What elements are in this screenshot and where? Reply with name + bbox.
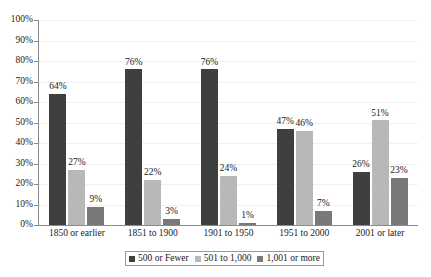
y-axis: 0%10%20%30%40%50%60%70%80%90%100% (0, 20, 33, 225)
y-axis-tick-mark (34, 164, 38, 165)
bar[interactable] (163, 219, 180, 225)
y-axis-tick-mark (34, 20, 38, 21)
x-axis-category-label: 1901 to 1950 (191, 229, 267, 239)
legend-swatch-icon (257, 256, 263, 262)
bar-group: 47%46%7% (266, 20, 342, 225)
legend-item[interactable]: 500 or Fewer (129, 254, 189, 264)
y-axis-tick-mark (34, 41, 38, 42)
legend-label: 501 to 1,000 (204, 254, 252, 264)
y-axis-tick-label: 0% (20, 220, 33, 230)
y-axis-tick-label: 80% (16, 56, 33, 66)
bar[interactable] (391, 178, 408, 225)
bar-value-label: 76% (192, 58, 226, 68)
y-axis-tick-label: 100% (11, 15, 33, 25)
y-axis-tick-label: 90% (16, 36, 33, 46)
bar[interactable] (353, 172, 370, 225)
bar[interactable] (315, 211, 332, 225)
y-axis-tick-label: 10% (16, 200, 33, 210)
bar-value-label: 27% (60, 158, 94, 168)
y-axis-tick-label: 20% (16, 179, 33, 189)
legend-swatch-icon (129, 256, 135, 262)
bar-value-label: 24% (211, 164, 245, 174)
legend-label: 500 or Fewer (138, 254, 189, 264)
bar-value-label: 76% (117, 58, 151, 68)
bar-chart: 0%10%20%30%40%50%60%70%80%90%100% 64%27%… (0, 0, 431, 277)
x-axis-category-label: 1951 to 2000 (266, 229, 342, 239)
bar-value-label: 3% (155, 207, 189, 217)
bar[interactable] (277, 129, 294, 225)
bar-value-label: 7% (306, 199, 340, 209)
legend-item[interactable]: 501 to 1,000 (195, 254, 252, 264)
y-axis-tick-mark (34, 82, 38, 83)
bar-value-label: 1% (230, 211, 264, 221)
bar[interactable] (239, 223, 256, 225)
legend-label: 1,001 or more (266, 254, 320, 264)
bar-value-label: 64% (41, 82, 75, 92)
y-axis-tick-mark (34, 225, 38, 226)
bar-group: 64%27%9% (39, 20, 115, 225)
bar-value-label: 51% (363, 109, 397, 119)
bar[interactable] (144, 180, 161, 225)
y-axis-tick-mark (34, 184, 38, 185)
plot-area: 64%27%9%76%22%3%76%24%1%47%46%7%26%51%23… (39, 20, 418, 225)
legend-item[interactable]: 1,001 or more (257, 254, 320, 264)
y-axis-tick-mark (34, 143, 38, 144)
legend-swatch-icon (195, 256, 201, 262)
bar-group: 76%24%1% (191, 20, 267, 225)
bar[interactable] (201, 69, 218, 225)
x-axis-category-label: 1850 or earlier (39, 229, 115, 239)
bar[interactable] (87, 207, 104, 225)
bar[interactable] (125, 69, 142, 225)
x-axis-line (38, 225, 418, 226)
y-axis-tick-mark (34, 123, 38, 124)
y-axis-tick-label: 60% (16, 97, 33, 107)
x-axis-category-label: 1851 to 1900 (115, 229, 191, 239)
bar-value-label: 23% (382, 166, 416, 176)
chart-legend: 500 or Fewer501 to 1,0001,001 or more (125, 251, 324, 266)
bar-group: 26%51%23% (342, 20, 418, 225)
y-axis-tick-mark (34, 205, 38, 206)
y-axis-tick-mark (34, 102, 38, 103)
bar-value-label: 46% (287, 119, 321, 129)
y-axis-tick-label: 50% (16, 118, 33, 128)
bar-value-label: 9% (79, 195, 113, 205)
y-axis-tick-label: 70% (16, 77, 33, 87)
y-axis-tick-label: 40% (16, 138, 33, 148)
x-axis-category-label: 2001 or later (342, 229, 418, 239)
bar-group: 76%22%3% (115, 20, 191, 225)
bar[interactable] (296, 131, 313, 225)
bar-value-label: 22% (136, 168, 170, 178)
y-axis-tick-label: 30% (16, 159, 33, 169)
y-axis-tick-mark (34, 61, 38, 62)
